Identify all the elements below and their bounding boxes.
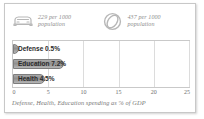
ball-icon — [102, 11, 124, 31]
stat-item-phones: 437 per 1000 population — [102, 11, 192, 31]
bar-row: Education 7.2% — [13, 59, 189, 69]
x-tick-25: 25 — [184, 89, 190, 95]
x-tick-20: 20 — [151, 89, 157, 95]
stat-item-vehicles: 229 per 1000 population — [12, 11, 102, 31]
stat-text-phones: 437 per 1000 population — [128, 14, 161, 29]
bar-label-health: Health 4.5% — [18, 74, 55, 84]
gridline — [189, 41, 190, 87]
infographic-card: 229 per 1000 population 437 per 1000 pop… — [4, 3, 196, 113]
bar-chart-plot: Defense 0.5%Education 7.2%Health 4.5% — [12, 40, 190, 88]
bar-label-defense: Defense 0.5% — [18, 44, 60, 54]
x-axis-ticks: 0510152025 — [12, 89, 190, 98]
car-icon — [12, 11, 34, 31]
bar-label-education: Education 7.2% — [18, 59, 66, 69]
x-tick-10: 10 — [80, 89, 86, 95]
stat-text-vehicles: 229 per 1000 population — [38, 14, 71, 29]
bar-row: Health 4.5% — [13, 74, 189, 84]
stats-row: 229 per 1000 population 437 per 1000 pop… — [5, 4, 195, 38]
chart-bars: Defense 0.5%Education 7.2%Health 4.5% — [13, 41, 189, 87]
chart-caption: Defense, Health, Education spending as %… — [12, 99, 192, 106]
x-tick-15: 15 — [116, 89, 122, 95]
bar-row: Defense 0.5% — [13, 44, 189, 54]
x-tick-0: 0 — [13, 89, 16, 95]
x-tick-5: 5 — [47, 89, 50, 95]
